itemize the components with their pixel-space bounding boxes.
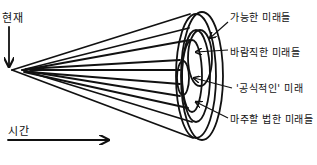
possible-futures-label: 가능한 미래들 <box>230 9 291 24</box>
preferable-futures-label: 바람직한 미래들 <box>230 44 300 59</box>
futures-cone-diagram: 현재 시간 가능한 미래들 바람직한 미래들 '공식적인' 미래 마주할 법한 … <box>0 0 317 165</box>
time-label: 시간 <box>8 122 29 138</box>
official-future-label: '공식적인' 미래 <box>236 80 303 95</box>
plausible-futures-label: 마주할 법한 미래들 <box>230 111 313 126</box>
present-label: 현재 <box>2 9 23 25</box>
